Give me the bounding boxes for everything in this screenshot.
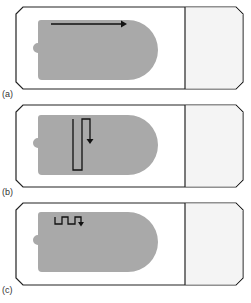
slide-label-area [185,204,242,285]
slide-diagram-b [0,98,251,196]
slide-label-area [185,8,242,89]
slide-label-area [185,106,242,187]
slide-diagram-a [0,0,251,98]
panel-b: (b) [0,98,251,196]
panel-label-c: (c) [2,285,13,295]
slide-diagram-c [0,196,251,294]
specimen-shape [33,212,158,272]
specimen-shape [33,115,158,175]
specimen-shape [33,20,158,80]
panel-c: (c) [0,196,251,294]
panel-a: (a) [0,0,251,98]
